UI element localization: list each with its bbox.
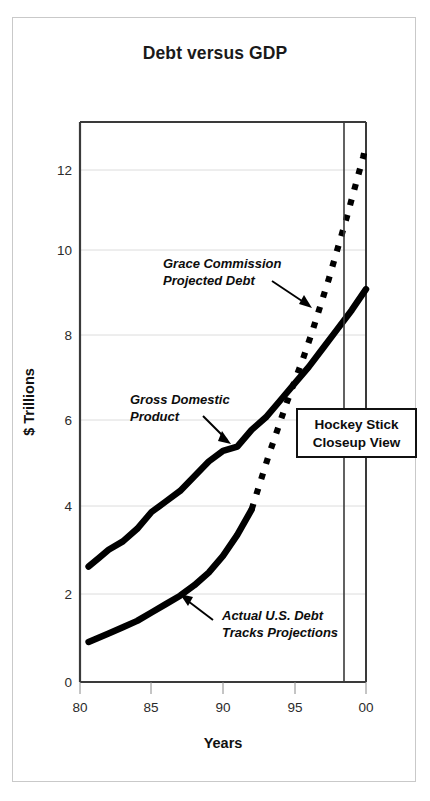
y-tick-label-10: 10 (57, 243, 72, 258)
annotation-gross-domestic-product-line2: Product (130, 409, 180, 424)
x-axis: 80 85 90 95 00 Years (72, 682, 373, 751)
annotation-gross-domestic-product: Gross Domestic Product (130, 392, 231, 444)
y-tick-label-8: 8 (64, 328, 72, 343)
y-tick-label-12: 12 (57, 163, 72, 178)
x-axis-title: Years (204, 735, 243, 751)
y-tick-label-6: 6 (64, 413, 72, 428)
annotation-grace-commission-line1: Grace Commission (163, 256, 282, 271)
annotation-actual-us-debt-line2: Tracks Projections (222, 625, 338, 640)
figure-page: Debt versus GDP 12 10 8 6 4 2 0 $ (0, 0, 430, 801)
y-axis-title: $ Trillions (21, 368, 37, 436)
y-tick-label-4: 4 (64, 499, 72, 514)
y-axis: 12 10 8 6 4 2 0 $ Trillions (21, 163, 72, 690)
x-tick-label-80: 80 (72, 700, 87, 715)
x-tick-label-95: 95 (287, 700, 302, 715)
annotation-actual-us-debt: Actual U.S. Debt Tracks Projections (180, 594, 338, 640)
annotation-grace-commission: Grace Commission Projected Debt (163, 256, 312, 308)
y-tick-label-2: 2 (64, 587, 72, 602)
annotation-gross-domestic-product-line1: Gross Domestic (130, 392, 230, 407)
annotation-actual-us-debt-arrow (180, 594, 213, 620)
hockey-stick-callout[interactable]: Hockey Stick Closeup View (297, 122, 416, 682)
hockey-stick-callout-line2: Closeup View (313, 435, 401, 450)
chart-canvas: 12 10 8 6 4 2 0 $ Trillions 80 85 90 95 … (0, 0, 430, 801)
x-tick-label-00: 00 (358, 700, 373, 715)
gridlines (80, 170, 366, 594)
hockey-stick-callout-line1: Hockey Stick (314, 417, 399, 432)
annotation-actual-us-debt-line1: Actual U.S. Debt (221, 608, 324, 623)
x-tick-label-90: 90 (215, 700, 230, 715)
annotation-grace-commission-line2: Projected Debt (163, 273, 255, 288)
x-tick-label-85: 85 (143, 700, 158, 715)
y-tick-label-0: 0 (64, 675, 72, 690)
annotation-grace-commission-arrow (272, 281, 312, 308)
